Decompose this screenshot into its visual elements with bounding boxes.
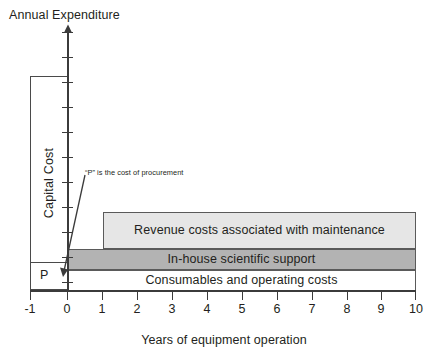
x-axis-caption: Years of equipment operation bbox=[0, 333, 448, 348]
x-axis-tick bbox=[415, 291, 416, 300]
band-inhouse-support: In-house scientific support bbox=[67, 249, 416, 270]
x-axis-tick bbox=[137, 291, 138, 300]
y-axis-tick bbox=[62, 82, 73, 83]
chart-title: Annual Expenditure bbox=[9, 8, 120, 23]
y-axis-tick bbox=[62, 107, 73, 108]
procurement-annotation-text: “P” is the cost of procurement bbox=[85, 168, 183, 178]
x-axis-tick-label: 2 bbox=[134, 302, 141, 317]
band-inhouse-support-label: In-house scientific support bbox=[168, 252, 316, 267]
x-axis-tick-label: 0 bbox=[64, 302, 71, 317]
x-axis-tick bbox=[381, 291, 382, 300]
procurement-annotation-leader-icon bbox=[50, 165, 110, 280]
x-axis-tick-label: 3 bbox=[169, 302, 176, 317]
x-axis-tick bbox=[102, 291, 103, 300]
x-axis-tick bbox=[347, 291, 348, 300]
y-axis-tick bbox=[62, 157, 73, 158]
x-axis-tick-label: 4 bbox=[204, 302, 211, 317]
x-axis-tick bbox=[67, 291, 68, 300]
y-axis-tick bbox=[62, 282, 73, 283]
x-axis-tick bbox=[30, 291, 31, 300]
y-axis-arrow-icon bbox=[61, 24, 75, 38]
x-axis-tick-label: 9 bbox=[378, 302, 385, 317]
x-axis-tick-label: 5 bbox=[239, 302, 246, 317]
band-consumables-operating-label: Consumables and operating costs bbox=[145, 273, 337, 288]
x-axis-line bbox=[30, 290, 416, 292]
x-axis-tick bbox=[277, 291, 278, 300]
band-consumables-operating: Consumables and operating costs bbox=[67, 270, 416, 291]
x-axis-tick-label: -1 bbox=[24, 302, 35, 317]
x-axis-tick bbox=[312, 291, 313, 300]
x-axis-tick-label: 1 bbox=[99, 302, 106, 317]
x-axis-tick-label: 10 bbox=[409, 302, 423, 317]
x-axis-tick-label: 6 bbox=[274, 302, 281, 317]
y-axis-tick bbox=[62, 57, 73, 58]
x-axis-tick-label: 8 bbox=[344, 302, 351, 317]
expenditure-chart: Annual Expenditure Capital Cost P Revenu… bbox=[0, 0, 448, 364]
x-axis-tick bbox=[242, 291, 243, 300]
x-axis-tick bbox=[207, 291, 208, 300]
x-axis-tick-label: 7 bbox=[309, 302, 316, 317]
band-revenue-costs-label: Revenue costs associated with maintenanc… bbox=[134, 223, 385, 238]
procurement-marker-label: P bbox=[40, 268, 48, 283]
band-revenue-costs: Revenue costs associated with maintenanc… bbox=[103, 212, 416, 249]
x-axis-tick bbox=[172, 291, 173, 300]
y-axis-tick bbox=[62, 132, 73, 133]
capital-cost-box-top-edge bbox=[30, 76, 68, 77]
